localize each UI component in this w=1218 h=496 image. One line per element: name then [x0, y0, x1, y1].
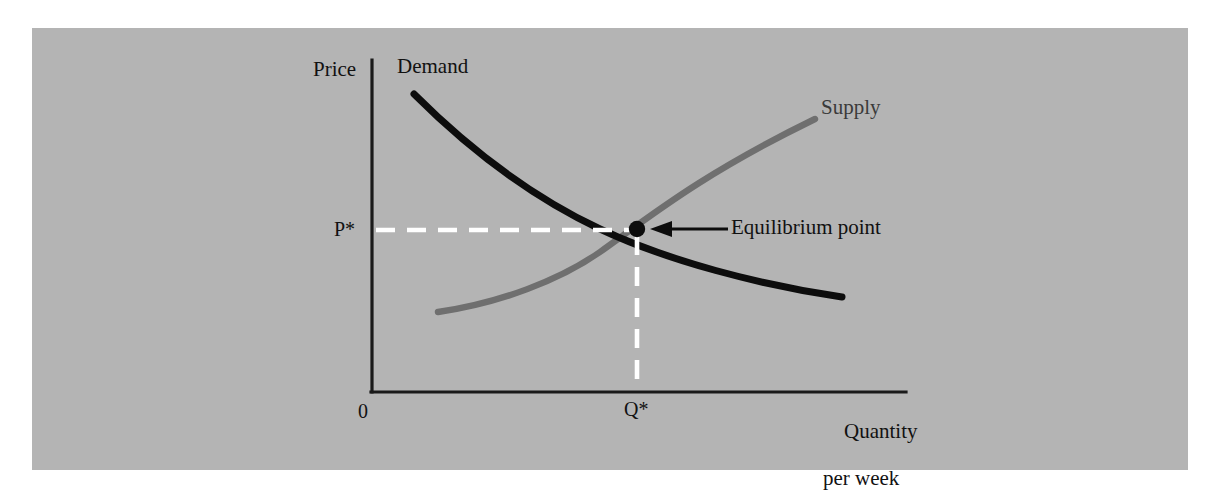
y-axis-tick-label-pstar: P* — [334, 218, 355, 240]
x-axis-label-line-1: Quantity — [844, 419, 918, 443]
demand-curve-label: Demand — [397, 55, 468, 79]
equilibrium-arrow — [650, 221, 728, 237]
equilibrium-point-label: Equilibrium point — [731, 216, 881, 240]
x-axis-tick-label-qstar: Q* — [624, 398, 648, 420]
supply-curve-label: Supply — [821, 96, 881, 120]
equilibrium-arrow-head — [650, 221, 672, 237]
x-axis-label-line-2: per week — [823, 467, 918, 491]
origin-label: 0 — [358, 400, 368, 422]
chart-drawing-area — [0, 0, 1218, 496]
equilibrium-point-marker — [629, 221, 645, 237]
x-axis-label: Quantity per week — [823, 396, 918, 496]
demand-curve — [414, 94, 842, 297]
y-axis-label: Price — [313, 58, 356, 82]
figure-root: Price Demand Supply Equilibrium point P*… — [0, 0, 1218, 496]
